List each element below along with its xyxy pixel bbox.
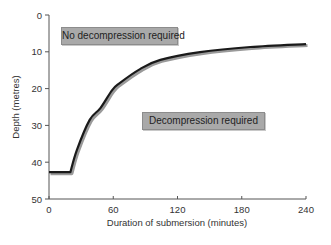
y-tick-label: 40: [31, 157, 42, 168]
y-tick-label: 20: [31, 83, 42, 94]
y-tick-label: 10: [31, 46, 42, 57]
x-axis-title: Duration of submersion (minutes): [107, 217, 247, 228]
x-tick-label: 60: [108, 204, 119, 215]
decompression-label: Decompression required: [142, 112, 265, 130]
y-tick-label: 30: [31, 120, 42, 131]
data-series: [49, 44, 308, 174]
y-tick-label: 0: [37, 10, 42, 21]
x-tick-label: 240: [298, 204, 314, 215]
decompression-limit-curve: [49, 44, 306, 172]
x-tick-label: 0: [46, 204, 51, 215]
x-tick-label: 180: [234, 204, 250, 215]
y-axis-title: Depth (metres): [10, 75, 21, 138]
curve-shadow: [51, 46, 308, 174]
y-tick-label: 50: [31, 194, 42, 205]
no-decompression-label: No decompression required: [61, 27, 178, 45]
x-tick-label: 120: [170, 204, 186, 215]
